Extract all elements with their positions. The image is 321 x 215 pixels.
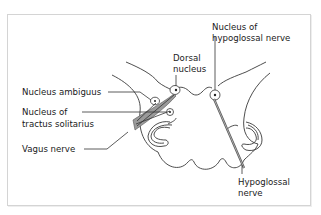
label-dorsal-line2: nucleus: [173, 64, 207, 74]
hypoglossal-nerve-fiber: [214, 99, 244, 168]
label-hypoglossal-nerve-line1: Hypoglossal: [238, 177, 290, 187]
label-nucleus-tractus-line2: tractus solitarius: [22, 119, 94, 129]
olive-left: [148, 122, 172, 147]
label-hypoglossal-nerve-line2: nerve: [238, 188, 263, 198]
label-dorsal-line1: Dorsal: [173, 53, 201, 63]
olive-right: [242, 122, 262, 151]
medulla-outline: [112, 62, 270, 169]
label-nucleus-tractus-line1: Nucleus of: [22, 107, 68, 117]
label-hypoglossal-nucleus-line1: Nucleus of: [212, 22, 258, 32]
label-nucleus-ambiguus: Nucleus ambiguus: [22, 87, 102, 97]
hypoglossal-nucleus: [210, 90, 220, 100]
dorsal-nucleus: [170, 86, 180, 95]
label-vagus-nerve: Vagus nerve: [22, 144, 75, 154]
medulla-diagram: Nucleus ambiguus Nucleus of tractus soli…: [0, 0, 321, 215]
label-hypoglossal-nucleus-line2: hypoglossal nerve: [212, 33, 290, 43]
